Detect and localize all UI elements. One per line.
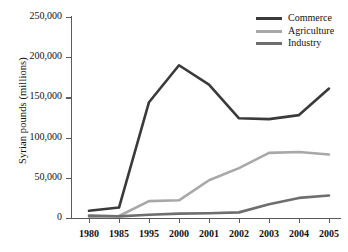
legend-label: Industry: [288, 37, 321, 48]
series-line-commerce: [89, 65, 329, 211]
legend-label: Commerce: [288, 12, 332, 23]
legend-label: Agriculture: [288, 25, 334, 36]
chart-legend: CommerceAgricultureIndustry: [256, 13, 348, 51]
legend-swatch-industry: [256, 42, 282, 45]
legend-item-industry[interactable]: Industry: [256, 38, 348, 51]
chart-figure: Syrian pounds (millions) 050,000100,0001…: [0, 0, 348, 252]
legend-swatch-agriculture: [256, 30, 282, 33]
legend-swatch-commerce: [256, 17, 282, 20]
